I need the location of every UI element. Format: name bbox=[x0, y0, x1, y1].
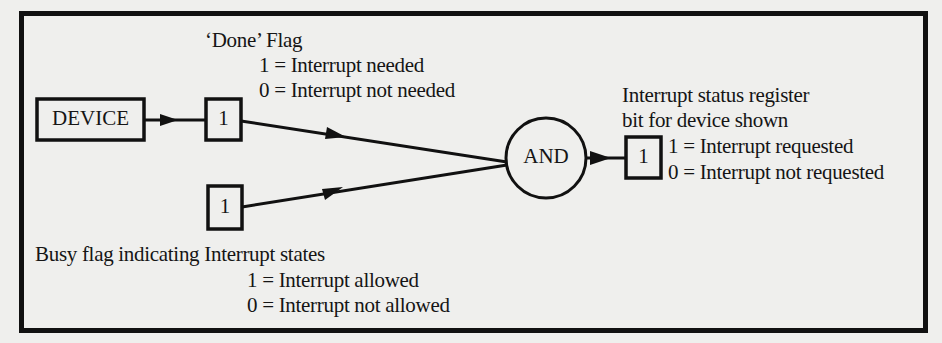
busy-to-and-line bbox=[242, 165, 507, 207]
arrow-icon bbox=[590, 151, 611, 165]
status-register-legend-0: 0 = Interrupt not requested bbox=[668, 160, 884, 184]
busy-flag-legend-0: 0 = Interrupt not allowed bbox=[247, 293, 450, 317]
done-flag-value: 1 bbox=[206, 106, 241, 131]
and-gate-label: AND bbox=[506, 144, 586, 169]
done-flag-legend-0: 0 = Interrupt not needed bbox=[259, 78, 455, 102]
device-label: DEVICE bbox=[37, 106, 144, 131]
done-flag-title: ‘Done’ Flag bbox=[205, 28, 302, 52]
done-flag-legend-1: 1 = Interrupt needed bbox=[259, 53, 424, 77]
status-register-title-1: Interrupt status register bbox=[622, 83, 809, 107]
status-register-legend-1: 1 = Interrupt requested bbox=[668, 134, 853, 158]
status-register-title-2: bit for device shown bbox=[622, 108, 788, 132]
arrow-icon bbox=[325, 127, 346, 139]
arrow-icon bbox=[322, 187, 343, 200]
arrow-icon bbox=[160, 114, 178, 126]
busy-flag-title: Busy flag indicating Interrupt states bbox=[35, 242, 325, 266]
busy-flag-value: 1 bbox=[208, 194, 242, 219]
status-register-value: 1 bbox=[626, 144, 661, 169]
busy-flag-legend-1: 1 = Interrupt allowed bbox=[247, 268, 419, 292]
done-to-and-line bbox=[241, 121, 507, 162]
